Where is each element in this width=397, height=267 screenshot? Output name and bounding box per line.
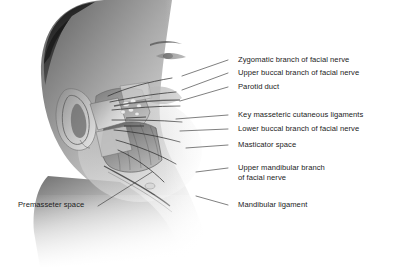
- label-parotid-duct: Parotid duct: [238, 82, 279, 92]
- label-premasseter-space: Premasseter space: [18, 200, 84, 210]
- label-lower-buccal-branch: Lower buccal branch of facial nerve: [238, 124, 359, 134]
- label-masticator-space: Masticator space: [238, 140, 296, 150]
- label-upper-mandibular-branch-line2: of facial nerve: [238, 173, 286, 183]
- label-zygomatic-branch: Zygomatic branch of facial nerve: [238, 55, 349, 65]
- label-upper-mandibular-branch-line1: Upper mandibular branch: [238, 163, 325, 173]
- label-mandibular-ligament: Mandibular ligament: [238, 200, 307, 210]
- anatomical-figure: Zygomatic branch of facial nerve Upper b…: [0, 0, 397, 267]
- label-key-masseteric-cutaneous-ligaments: Key masseteric cutaneous ligaments: [238, 110, 363, 120]
- label-upper-buccal-branch: Upper buccal branch of facial nerve: [238, 68, 359, 78]
